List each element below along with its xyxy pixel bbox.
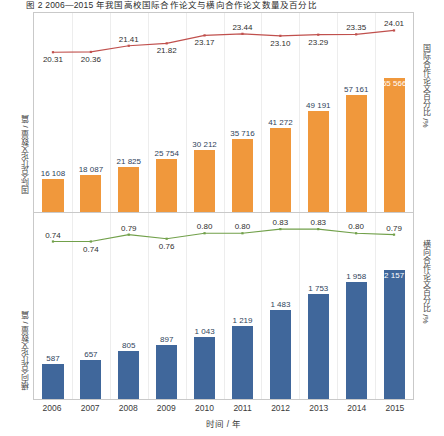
plot-area-bottom: 5876578058971 0431 2191 4831 7531 9582 1…	[34, 213, 413, 399]
y-axis-title-top-right: 国际合作论文百分比 /%	[420, 44, 431, 194]
bar-cell: 805	[110, 213, 148, 399]
line-value-label: 21.41	[119, 35, 139, 44]
bar-2010: 1 043	[194, 337, 215, 399]
line-value-label: 20.36	[81, 55, 101, 64]
bar-cell: 16 108	[34, 13, 72, 212]
x-tick-2007: 2007	[71, 401, 109, 416]
x-tick-2011: 2011	[223, 401, 261, 416]
bar-2013: 1 753	[308, 294, 329, 399]
bar-2014: 1 958	[346, 282, 367, 399]
line-value-label: 0.80	[348, 222, 364, 231]
bar-value-label: 805	[122, 341, 135, 350]
line-value-label: 21.82	[157, 46, 177, 55]
y-axis-title-top-left: 国际合作论文数量 / 篇	[20, 44, 31, 194]
x-tick-2009: 2009	[147, 401, 185, 416]
bar-cell: 657	[72, 213, 110, 399]
line-value-label: 20.31	[43, 55, 63, 64]
bar-cell: 1 958	[337, 213, 375, 399]
bar-value-label: 657	[84, 350, 97, 359]
line-value-label: 0.80	[235, 222, 251, 231]
bar-value-label: 35 716	[230, 129, 254, 138]
bar-value-label: 1 219	[232, 316, 252, 325]
line-value-label: 0.76	[159, 242, 175, 251]
bar-value-label: 57 161	[344, 85, 368, 94]
bar-2011: 35 716	[232, 139, 253, 212]
bar-cell: 18 087	[72, 13, 110, 212]
bar-value-label: 49 191	[306, 101, 330, 110]
bar-cell: 2 157	[375, 213, 413, 399]
plot-area-top: 16 10818 08721 82525 75430 21235 71641 2…	[34, 13, 413, 212]
x-tick-2012: 2012	[262, 401, 300, 416]
bar-cell: 25 754	[148, 13, 186, 212]
bar-value-label: 16 108	[41, 169, 65, 178]
line-value-label: 0.74	[83, 245, 99, 254]
line-value-label: 0.83	[273, 218, 289, 227]
line-value-label: 24.01	[384, 19, 404, 28]
bar-2008: 805	[118, 351, 139, 399]
bar-2007: 18 087	[80, 175, 101, 212]
horizontal-collaboration-panel: 5876578058971 0431 2191 4831 7531 9582 1…	[33, 212, 414, 400]
line-value-label: 23.29	[308, 38, 328, 47]
bar-2015: 2 157	[384, 270, 405, 399]
line-value-label: 23.17	[195, 38, 215, 47]
bar-value-label: 65 566	[382, 79, 406, 88]
bar-cell: 35 716	[224, 13, 262, 212]
bar-2011: 1 219	[232, 326, 253, 399]
x-tick-2014: 2014	[338, 401, 376, 416]
bar-cell: 1 043	[186, 213, 224, 399]
bar-value-label: 41 272	[268, 118, 292, 127]
bar-2015: 65 566	[384, 78, 405, 212]
x-tick-2006: 2006	[33, 401, 71, 416]
bar-cell: 57 161	[337, 13, 375, 212]
international-collaboration-panel: 16 10818 08721 82525 75430 21235 71641 2…	[33, 12, 414, 212]
line-value-label: 23.10	[270, 39, 290, 48]
bar-2012: 41 272	[270, 128, 291, 212]
line-value-label: 23.35	[346, 23, 366, 32]
bar-2010: 30 212	[194, 150, 215, 212]
x-tick-2010: 2010	[185, 401, 223, 416]
bar-value-label: 587	[46, 354, 59, 363]
x-axis-title: 时间 / 年	[33, 417, 414, 429]
bar-value-label: 1 958	[346, 272, 366, 281]
x-tick-2015: 2015	[376, 401, 414, 416]
bar-value-label: 897	[160, 335, 173, 344]
line-value-label: 0.79	[386, 224, 402, 233]
line-value-label: 23.44	[232, 23, 252, 32]
bar-value-label: 30 212	[192, 140, 216, 149]
bar-value-label: 21 825	[117, 157, 141, 166]
bar-series-horizontal: 5876578058971 0431 2191 4831 7531 9582 1…	[34, 213, 413, 399]
x-axis-tick-labels: 2006200720082009201020112012201320142015	[33, 401, 414, 416]
bar-value-label: 1 043	[195, 327, 215, 336]
y-axis-title-bottom-left: 横向合作论文数量 / 篇	[20, 240, 31, 390]
bar-cell: 1 219	[224, 213, 262, 399]
bar-value-label: 1 753	[308, 284, 328, 293]
bar-2013: 49 191	[308, 111, 329, 212]
bar-cell: 65 566	[375, 13, 413, 212]
bar-2006: 16 108	[42, 179, 63, 212]
bar-2014: 57 161	[346, 95, 367, 212]
bar-2009: 25 754	[156, 159, 177, 212]
bar-cell: 1 483	[261, 213, 299, 399]
line-value-label: 0.74	[45, 231, 61, 240]
bar-series-international: 16 10818 08721 82525 75430 21235 71641 2…	[34, 13, 413, 212]
bar-value-label: 1 483	[270, 300, 290, 309]
bar-cell: 1 753	[299, 213, 337, 399]
bar-value-label: 18 087	[79, 165, 103, 174]
x-tick-2013: 2013	[300, 401, 338, 416]
bar-2007: 657	[80, 360, 101, 399]
bar-2008: 21 825	[118, 167, 139, 212]
line-value-label: 0.80	[197, 222, 213, 231]
bar-2009: 897	[156, 345, 177, 399]
bar-2006: 587	[42, 364, 63, 399]
bar-2012: 1 483	[270, 310, 291, 399]
line-value-label: 0.83	[310, 218, 326, 227]
x-tick-2008: 2008	[109, 401, 147, 416]
bar-value-label: 2 157	[384, 271, 404, 280]
chart-figure: 图 2 2006—2015 年我国高校国际合作论文与横向合作论文数量及百分比 1…	[0, 0, 444, 436]
y-axis-title-bottom-right: 横向合作论文百分比 /%	[420, 240, 431, 390]
bar-cell: 587	[34, 213, 72, 399]
figure-title: 图 2 2006—2015 年我国高校国际合作论文与横向合作论文数量及百分比	[26, 0, 418, 11]
line-value-label: 0.79	[121, 224, 137, 233]
bar-value-label: 25 754	[154, 149, 178, 158]
